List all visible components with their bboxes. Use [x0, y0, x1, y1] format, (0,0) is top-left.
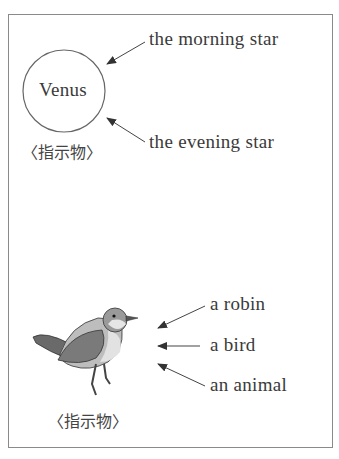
arrow-animal — [158, 364, 205, 386]
expression-evening-star: the evening star — [149, 131, 274, 153]
robin-icon — [33, 308, 138, 395]
arrow-evening-star — [107, 118, 145, 142]
venus-label: Venus — [39, 79, 87, 101]
referent-label-top: 〈指示物〉 — [22, 139, 102, 163]
arrows-and-shapes — [0, 0, 339, 459]
referent-label-bottom: 〈指示物〉 — [48, 408, 128, 432]
arrow-morning-star — [107, 42, 145, 64]
expression-bird: a bird — [210, 334, 256, 356]
arrow-robin — [158, 306, 205, 328]
expression-morning-star: the morning star — [149, 28, 278, 50]
expression-animal: an animal — [210, 374, 287, 396]
expression-robin: a robin — [210, 293, 265, 315]
